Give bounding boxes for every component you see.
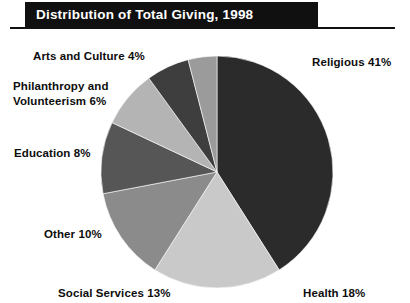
pie-label-arts-and-culture: Arts and Culture 4% [33, 49, 145, 64]
pie-label-health: Health 18% [303, 286, 365, 301]
pie-label-social-services: Social Services 13% [58, 286, 171, 301]
pie-slice-group [101, 56, 333, 288]
chart-figure: Distribution of Total Giving, 1998 Arts … [0, 0, 410, 303]
pie-label-education: Education 8% [14, 146, 91, 161]
pie-label-philanthropy-and-volunteerism: Philanthropy and Volunteerism 6% [13, 79, 109, 108]
pie-label-religious: Religious 41% [312, 55, 391, 70]
pie-label-other: Other 10% [44, 227, 102, 242]
